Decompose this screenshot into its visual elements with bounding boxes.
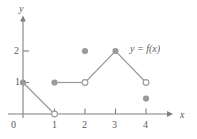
y-axis-label: y (19, 4, 23, 14)
open-point-2-1 (82, 80, 88, 86)
x-axis-ticks (55, 109, 147, 115)
y-axis-ticks (23, 51, 29, 83)
closed-point-1-1 (51, 79, 57, 85)
x-axis (8, 111, 173, 117)
x-tick-label-0: 0 (11, 120, 16, 130)
closed-point-0-1 (20, 79, 26, 85)
y-tick-label-1: 1 (15, 77, 20, 87)
y-tick-label-2: 2 (14, 46, 19, 56)
closed-point-3-2 (112, 48, 118, 54)
y-axis (20, 16, 26, 119)
x-axis-label: x (180, 110, 184, 120)
closed-endpoints (20, 48, 149, 102)
curve-segment-3 (85, 51, 146, 83)
x-tick-label-2: 2 (82, 120, 87, 130)
closed-point-2-2 (82, 48, 88, 54)
curve-label: y = f(x) (130, 44, 160, 54)
x-tick-label-1: 1 (52, 120, 57, 130)
open-point-1-0 (52, 111, 58, 117)
plot-canvas (0, 0, 197, 139)
x-tick-label-3: 3 (112, 120, 117, 130)
open-endpoints (52, 80, 149, 117)
open-point-4-1 (143, 80, 149, 86)
function-graph-figure: y x 2 1 0 1 2 3 4 y = f(x) (0, 0, 197, 139)
x-tick-label-4: 4 (143, 120, 148, 130)
curve-segment-1 (23, 83, 55, 115)
closed-point-4-half (143, 95, 149, 101)
